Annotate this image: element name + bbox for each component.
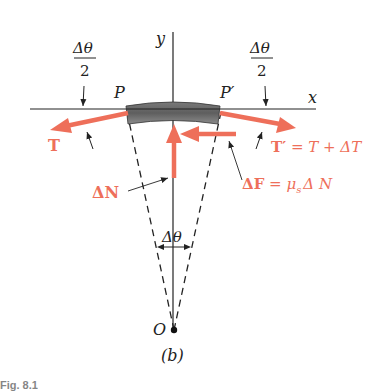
delta-F-subscript: s <box>296 184 301 195</box>
x-axis-label: x <box>308 88 317 107</box>
delta-F-label: ΔF = μsΔ N <box>242 175 333 195</box>
friction-force-arrow <box>180 126 236 142</box>
point-P-label: P <box>113 83 125 102</box>
T-prime-symbol: T′ <box>271 138 286 156</box>
tension-T-arrow <box>50 113 128 133</box>
T-prime-expression: = T + ΔT <box>291 138 362 156</box>
delta-F-tail: Δ N <box>302 175 333 193</box>
point-O-label: O <box>153 320 166 339</box>
right-half-angle-denominator: 2 <box>257 62 267 80</box>
point-P-prime-label: P′ <box>219 83 235 102</box>
subfigure-label: (b) <box>161 346 184 365</box>
right-half-angle-numerator: Δθ <box>249 39 270 57</box>
delta-F-equals-mu: = μ <box>269 175 296 193</box>
delta-N-leader <box>128 178 168 191</box>
tension-T-prime-arrow <box>220 113 296 133</box>
T-label: T <box>48 136 60 155</box>
center-point-O <box>171 327 177 333</box>
figure-caption-fragment: Fig. 8.1 <box>0 379 38 391</box>
normal-force-arrow <box>166 124 182 178</box>
belt-segment <box>126 102 220 124</box>
left-half-angle-denominator: 2 <box>80 62 90 80</box>
delta-F-leader <box>229 141 242 180</box>
center-angle-label: Δθ <box>161 228 182 246</box>
left-half-angle-numerator: Δθ <box>72 39 93 57</box>
y-axis-label: y <box>155 29 166 48</box>
T-prime-label: T′ = T + ΔT <box>271 138 362 156</box>
delta-N-label: ΔN <box>92 183 119 202</box>
delta-F-symbol: ΔF <box>242 175 265 193</box>
